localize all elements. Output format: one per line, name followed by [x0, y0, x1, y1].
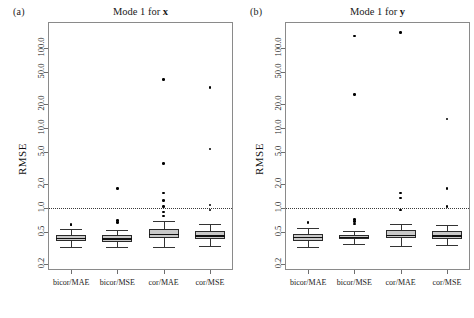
x-category-label: cor/MSE	[182, 278, 238, 287]
x-tick-mark	[401, 270, 402, 274]
boxplot-upper-cap	[297, 228, 319, 229]
boxplot-upper-cap	[343, 231, 365, 232]
boxplot-upper-cap	[60, 229, 82, 230]
boxplot-lower-cap	[343, 244, 365, 245]
boxplot-upper-whisker	[164, 221, 165, 229]
x-tick-mark	[308, 270, 309, 274]
x-tick-mark	[117, 270, 118, 274]
figure-root: (a) Mode 1 for x RMSE 0.20.51.02.05.010.…	[0, 0, 474, 318]
boxplot-median	[56, 238, 86, 240]
boxplot-upper-cap	[390, 224, 412, 225]
boxplot-lower-whisker	[164, 238, 165, 246]
panel-b: (b) Mode 1 for y RMSE 0.20.51.02.05.010.…	[237, 0, 474, 318]
y-tick-label: 0.2	[36, 248, 46, 278]
x-tick-mark	[210, 270, 211, 274]
boxplot-median	[293, 237, 323, 239]
boxplot-upper-cap	[153, 221, 175, 222]
boxplot-outlier	[209, 86, 212, 89]
boxplot-median	[386, 235, 416, 237]
panel-b-title: Mode 1 for y	[285, 6, 470, 17]
x-tick-mark	[164, 270, 165, 274]
panel-a-tag: (a)	[13, 6, 25, 17]
panel-b-title-prefix: Mode 1 for	[350, 6, 400, 17]
y-tick-label: 100.0	[273, 32, 283, 62]
boxplot-lower-cap	[153, 247, 175, 248]
panel-a-ylabel: RMSE	[16, 143, 28, 175]
boxplot-upper-cap	[436, 225, 458, 226]
boxplot-lower-cap	[199, 246, 221, 247]
boxplot-lower-cap	[436, 245, 458, 246]
boxplot-outlier	[446, 205, 449, 208]
boxplot-lower-cap	[297, 247, 319, 248]
x-tick-mark	[447, 270, 448, 274]
panel-a-title-var: x	[163, 6, 168, 17]
boxplot-median	[339, 237, 369, 239]
boxplot-outlier	[162, 162, 165, 165]
x-tick-mark	[354, 270, 355, 274]
boxplot-outlier	[399, 31, 402, 34]
boxplot-lower-cap	[60, 247, 82, 248]
reference-line-1	[286, 208, 469, 209]
y-tick-label: 2.0	[273, 168, 283, 198]
panel-a-title-prefix: Mode 1 for	[113, 6, 163, 17]
boxplot-median	[195, 235, 225, 237]
boxplot-outlier	[353, 218, 356, 221]
boxplot-outlier	[116, 219, 119, 222]
x-tick-mark	[71, 270, 72, 274]
panel-b-ylabel: RMSE	[253, 143, 265, 175]
boxplot-outlier	[162, 205, 165, 208]
boxplot-median	[432, 235, 462, 237]
boxplot-outlier	[162, 199, 165, 202]
boxplot-upper-cap	[106, 230, 128, 231]
y-tick-label: 0.2	[273, 248, 283, 278]
boxplot-upper-cap	[199, 224, 221, 225]
reference-line-1	[49, 208, 232, 209]
boxplot-outlier	[162, 78, 165, 81]
boxplot-outlier	[116, 187, 119, 190]
y-tick-label: 20.0	[273, 88, 283, 118]
y-tick-label: 2.0	[36, 168, 46, 198]
boxplot-median	[102, 238, 132, 240]
boxplot-lower-whisker	[401, 238, 402, 245]
panel-b-tag: (b)	[250, 6, 262, 17]
boxplot-median	[149, 234, 179, 236]
boxplot-lower-cap	[106, 247, 128, 248]
y-tick-label: 100.0	[36, 32, 46, 62]
panel-b-title-var: y	[400, 6, 405, 17]
boxplot-upper-whisker	[210, 224, 211, 231]
panel-a-title: Mode 1 for x	[48, 6, 233, 17]
boxplot-outlier	[353, 93, 356, 96]
y-tick-label: 20.0	[36, 88, 46, 118]
boxplot-outlier	[162, 211, 165, 214]
x-category-label: cor/MSE	[419, 278, 474, 287]
panel-a: (a) Mode 1 for x RMSE 0.20.51.02.05.010.…	[0, 0, 237, 318]
boxplot-outlier	[399, 197, 402, 200]
boxplot-lower-cap	[390, 246, 412, 247]
